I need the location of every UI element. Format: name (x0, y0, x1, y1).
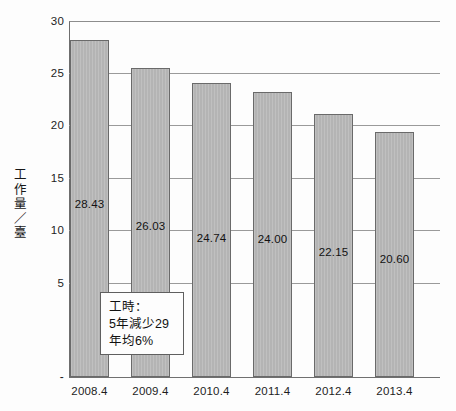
x-tick-label: 2013.4 (367, 385, 422, 397)
y-tick-label: 15 (24, 172, 64, 184)
y-tick-label: 25 (24, 67, 64, 79)
x-tick-label: 2012.4 (306, 385, 361, 397)
annotation-line: 年均6% (109, 333, 183, 350)
y-tick-label: 10 (24, 224, 64, 236)
annotation-box: 工時： 5年減少29 年均6% (100, 292, 184, 355)
bar-value-label: 24.74 (192, 232, 231, 244)
bar-chart: 工 作 量 ／ 臺 30 25 20 15 10 5 - 28.43 26.03… (0, 0, 456, 411)
x-tick-label: 2008.4 (62, 385, 117, 397)
y-axis-ticks: 30 25 20 15 10 5 - (20, 0, 64, 411)
y-tick-label-zero: - (24, 370, 64, 384)
bar-value-label: 28.43 (70, 198, 109, 210)
annotation-line: 工時： (109, 299, 183, 316)
x-tick-label: 2011.4 (245, 385, 300, 397)
bar-value-label: 26.03 (131, 220, 170, 232)
bar-value-label: 20.60 (375, 253, 414, 265)
bar-2010 (192, 83, 231, 377)
bar-value-label: 22.15 (314, 246, 353, 258)
x-tick-label: 2009.4 (123, 385, 178, 397)
y-tick-label: 5 (24, 277, 64, 289)
gridline-25 (69, 73, 440, 74)
annotation-line: 5年減少29 (109, 316, 183, 333)
y-tick-label: 30 (24, 15, 64, 27)
bar-value-label: 24.00 (253, 233, 292, 245)
y-tick-label: 20 (24, 119, 64, 131)
x-axis-baseline (69, 377, 440, 378)
x-tick-label: 2010.4 (184, 385, 239, 397)
